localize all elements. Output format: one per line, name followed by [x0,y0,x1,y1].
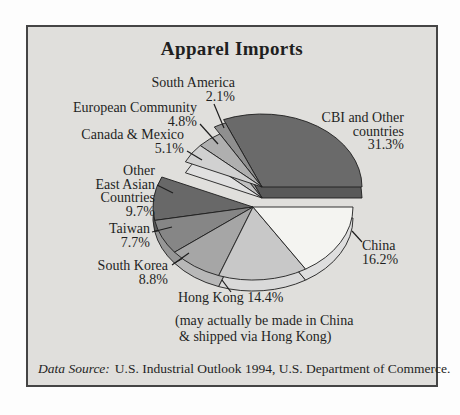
label-european-community: European Community 4.8% [73,101,197,128]
label-line: 8.8% [98,273,168,287]
figure: Apparel Imports South America 2.1% Europ… [0,0,460,415]
label-line: 31.3% [322,138,404,152]
pie-chart [0,0,460,415]
note-line: & shipped via Hong Kong) [175,329,353,345]
label-line: European Community [73,101,197,115]
label-line: Other [96,164,156,178]
label-other-east-asian-countries: Other East Asian Countries 9.7% [96,164,156,218]
note-line: (may actually be made in China [175,313,353,329]
label-hong-kong: Hong Kong 14.4% [178,291,283,305]
label-canada-mexico: Canada & Mexico 5.1% [81,128,184,155]
label-south-america: South America 2.1% [151,76,235,103]
label-taiwan: Taiwan 7.7% [109,222,150,249]
label-line: CBI and Other [322,111,404,125]
label-line: 9.7% [96,205,156,219]
label-cbi-and-other-countries: CBI and Other countries 31.3% [322,111,404,152]
data-source-text: U.S. Industrial Outlook 1994, U.S. Depar… [115,361,451,376]
label-line: 4.8% [73,115,197,129]
chart-title: Apparel Imports [26,38,438,60]
label-line: Countries [96,191,156,205]
data-source: Data Source:U.S. Industrial Outlook 1994… [38,361,450,377]
label-line: 7.7% [109,236,150,250]
label-south-korea: South Korea 8.8% [98,259,168,286]
label-line: 16.2% [362,253,398,267]
hong-kong-note: (may actually be made in China & shipped… [175,313,353,344]
label-line: China [362,239,398,253]
leader-south-america [214,104,224,128]
label-line: countries [322,125,404,139]
leader-china [352,231,362,242]
label-line: Hong Kong 14.4% [178,291,283,305]
data-source-prefix: Data Source: [38,361,110,376]
label-line: South America [151,76,235,90]
label-line: Canada & Mexico [81,128,184,142]
label-line: Taiwan [109,222,150,236]
label-line: 5.1% [81,142,184,156]
label-line: South Korea [98,259,168,273]
label-line: East Asian [96,178,156,192]
label-china: China 16.2% [362,239,398,266]
